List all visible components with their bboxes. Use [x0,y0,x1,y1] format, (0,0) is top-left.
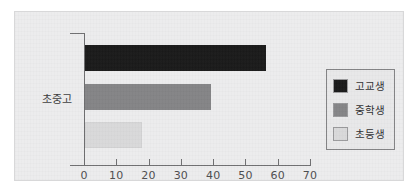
bar-중학생 [85,84,211,110]
x-tick-label-70: 70 [290,169,330,182]
x-tick-70 [310,159,311,165]
y-axis-top-cap [70,33,85,34]
x-tick-30 [181,159,182,165]
legend-swatch-icon-2 [333,127,348,141]
legend: 고교생 중학생 초등생 [326,69,395,150]
legend-item-1[interactable]: 중학생 [333,101,391,118]
x-tick-40 [213,159,214,165]
x-tick-0 [84,159,85,165]
x-axis-line [70,165,311,166]
x-tick-50 [245,159,246,165]
bar-초등생 [85,122,142,148]
legend-label-0: 고교생 [355,78,385,93]
y-axis-category-label: 초중고 [31,90,83,106]
x-tick-10 [116,159,117,165]
legend-swatch-icon-0 [333,79,348,93]
legend-label-1: 중학생 [355,102,385,117]
legend-label-2: 초등생 [355,126,385,141]
legend-item-2[interactable]: 초등생 [333,125,391,142]
bar-고교생 [85,45,266,71]
x-tick-20 [149,159,150,165]
x-tick-60 [278,159,279,165]
chart-plot-frame: 초중고 010203040506070 고교생 중학생 초등생 [14,11,404,181]
bar-chart: 초중고 010203040506070 고교생 중학생 초등생 [0,0,418,191]
legend-swatch-icon-1 [333,103,348,117]
legend-item-0[interactable]: 고교생 [333,77,391,94]
